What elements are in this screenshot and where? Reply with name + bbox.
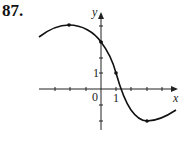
point-one-one: [114, 71, 118, 75]
x-axis: [39, 86, 178, 92]
x-axis-label: x: [172, 91, 179, 105]
marked-points: [67, 23, 149, 123]
origin-label: 0: [92, 90, 98, 104]
function-graph: y x 0 1 1: [0, 0, 192, 141]
y-axis-label: y: [91, 5, 98, 19]
point-max: [67, 23, 71, 27]
function-curve: [39, 25, 176, 121]
y-axis-arrow-icon: [98, 12, 104, 19]
x-tick-label-1: 1: [113, 91, 119, 105]
point-y-intercept: [99, 40, 103, 44]
point-min: [145, 119, 149, 123]
y-tick-label-1: 1: [93, 66, 99, 80]
